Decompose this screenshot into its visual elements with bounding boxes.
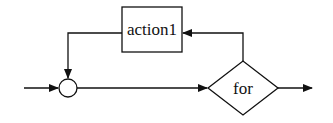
flowchart: for action1 xyxy=(0,0,333,123)
for-node: for xyxy=(208,61,278,115)
action1-label: action1 xyxy=(127,20,177,39)
action1-node: action1 xyxy=(122,7,182,52)
edge-for-to-action1 xyxy=(183,33,243,61)
edge-action1-to-merge xyxy=(68,33,122,78)
merge-node xyxy=(59,79,77,97)
for-label: for xyxy=(233,79,253,98)
